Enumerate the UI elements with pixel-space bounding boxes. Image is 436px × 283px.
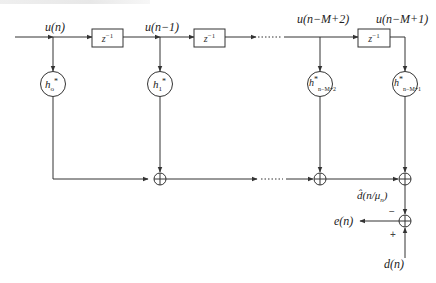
label-u-n-m-2: u(n−M+2) xyxy=(297,13,349,25)
coef-label-m2: h*n−M+2 xyxy=(309,76,336,92)
sum-node-1 xyxy=(154,173,166,185)
coef-label-m1: h*n−M+1 xyxy=(394,76,421,92)
label-u-n-1: u(n−1) xyxy=(145,21,179,33)
delay-label-3: z−1 xyxy=(358,33,390,44)
label-u-n: u(n) xyxy=(45,21,65,33)
delay-label-1: z−1 xyxy=(92,33,123,44)
minus-sign: − xyxy=(389,207,395,217)
label-u-n-m-1: u(n−M+1) xyxy=(376,13,428,25)
error-sum-node xyxy=(399,215,411,227)
estimate-label: d̂(n/μn) xyxy=(357,190,387,204)
coef-label-1: h1* xyxy=(153,78,166,93)
error-label: e(n) xyxy=(334,215,353,227)
delay-label-2: z−1 xyxy=(194,33,225,44)
coef-label-0: ho* xyxy=(45,78,58,93)
sum-node-2 xyxy=(314,173,326,185)
plus-sign: + xyxy=(390,230,396,240)
desired-label: d(n) xyxy=(384,258,404,270)
sum-node-3 xyxy=(399,173,411,185)
